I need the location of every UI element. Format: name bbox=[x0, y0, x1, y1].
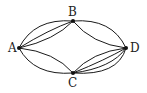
edge-a-b-outer bbox=[19, 21, 73, 48]
label-d: D bbox=[130, 42, 140, 54]
node-b bbox=[71, 19, 75, 23]
label-b: B bbox=[68, 6, 77, 18]
edge-b-d-outer bbox=[73, 21, 126, 48]
label-c: C bbox=[68, 77, 77, 89]
edge-a-b-inner bbox=[19, 21, 73, 48]
edge-b-d-inner bbox=[73, 21, 126, 48]
edge-a-c-inner bbox=[19, 48, 73, 73]
edge-c-d-2 bbox=[73, 48, 126, 73]
edge-a-c-outer bbox=[19, 48, 73, 73]
node-d bbox=[124, 46, 128, 50]
node-a bbox=[17, 46, 21, 50]
node-c bbox=[71, 71, 75, 75]
label-a: A bbox=[8, 42, 17, 54]
edge-a-b-mid bbox=[19, 21, 73, 48]
